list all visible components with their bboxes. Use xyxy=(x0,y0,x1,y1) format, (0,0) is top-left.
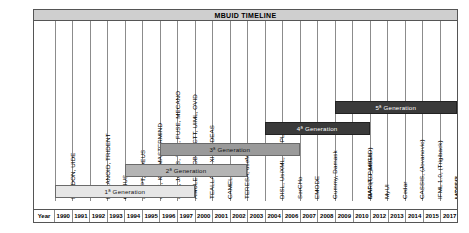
axis-bottom-rule xyxy=(33,222,458,223)
year-tick-label: 2003 xyxy=(247,210,265,222)
generation-bar: 1ª Generation xyxy=(55,185,195,198)
year-tick-label: 2007 xyxy=(300,210,318,222)
technology-label: MyUI xyxy=(383,184,390,199)
year-tick-label: 2012 xyxy=(370,210,388,222)
grid-line xyxy=(317,21,318,201)
generation-bar-label: 1ª Generation xyxy=(105,188,146,195)
year-tick-label: 2004 xyxy=(265,210,283,222)
generation-bar: 4ª Generation xyxy=(265,122,370,135)
year-tick-label: 2015 xyxy=(423,210,441,222)
chart-title-band: MBUID TIMELINE xyxy=(34,10,457,21)
grid-line xyxy=(300,21,301,201)
generation-bar: 3ª Generation xyxy=(160,143,300,156)
year-tick-label: 1991 xyxy=(72,210,90,222)
generation-bar-label: 4ª Generation xyxy=(297,125,338,132)
year-tick-label: 2002 xyxy=(230,210,248,222)
technology-label: MODUS xyxy=(453,175,457,199)
technology-label: EMODE xyxy=(313,176,320,199)
technology-label: Gummy, Damask xyxy=(331,150,338,199)
year-tick-label: 1994 xyxy=(124,210,142,222)
year-tick-label: 2009 xyxy=(335,210,353,222)
mbuid-timeline-chart: MBUID TIMELINE ITS, DON, UIDEHUMANOID, T… xyxy=(0,0,469,233)
technology-label: IFML 1.0, (Trigiback) xyxy=(436,140,443,199)
page-title: MBUID TIMELINE xyxy=(215,12,277,19)
year-tick-label: 1993 xyxy=(107,210,125,222)
year-tick-label: 1990 xyxy=(54,210,72,222)
year-tick-label: 1992 xyxy=(89,210,107,222)
year-tick-label: 2006 xyxy=(282,210,300,222)
generation-bar-label: 5ª Generation xyxy=(375,104,416,111)
technology-label: OAF (TD_MBUID) xyxy=(366,147,373,199)
timeline-plot-area: ITS, DON, UIDEHUMANOID, TRIDENTGENIUSADE… xyxy=(34,21,457,201)
technology-label: CASSIS, (Jovanovic) xyxy=(418,139,425,199)
year-tick-label: 1997 xyxy=(177,210,195,222)
year-tick-label: 1996 xyxy=(159,210,177,222)
technology-label: Cedar xyxy=(401,182,408,199)
year-tick-label: 2000 xyxy=(195,210,213,222)
generation-bar: 5ª Generation xyxy=(335,101,457,114)
technology-label: DISL, UsiXML, SUPPLE xyxy=(278,130,285,199)
year-tick-label: 1995 xyxy=(142,210,160,222)
year-tick-label: 2001 xyxy=(212,210,230,222)
grid-line xyxy=(90,21,91,201)
technology-label: TEALLACH, XIML, IDEAS xyxy=(208,125,215,199)
axis-caption: Year xyxy=(34,210,54,222)
year-tick-label: 2010 xyxy=(353,210,371,222)
year-tick-label: 2017 xyxy=(440,210,458,222)
grid-line xyxy=(55,21,56,201)
year-tick-label: 2014 xyxy=(405,210,423,222)
year-tick-label: 2013 xyxy=(388,210,406,222)
technology-label: SerCHo xyxy=(296,176,303,199)
generation-bar-label: 2ª Generation xyxy=(166,167,207,174)
year-tick-label: 2008 xyxy=(317,210,335,222)
generation-bar: 2ª Generation xyxy=(125,164,247,177)
generation-bar-label: 3ª Generation xyxy=(209,146,250,153)
grid-line xyxy=(265,21,266,201)
